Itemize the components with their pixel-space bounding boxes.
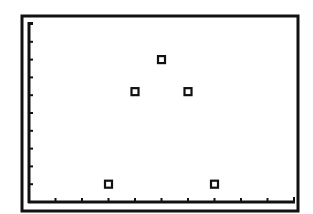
data-point-marker: [211, 181, 218, 188]
data-point-marker: [185, 88, 192, 95]
data-point-marker: [105, 181, 112, 188]
data-point-marker: [132, 88, 139, 95]
plot-background: [0, 0, 313, 214]
scatter-plot: [0, 0, 313, 214]
calculator-graph-screen: [0, 0, 313, 214]
data-point-marker: [158, 56, 165, 63]
